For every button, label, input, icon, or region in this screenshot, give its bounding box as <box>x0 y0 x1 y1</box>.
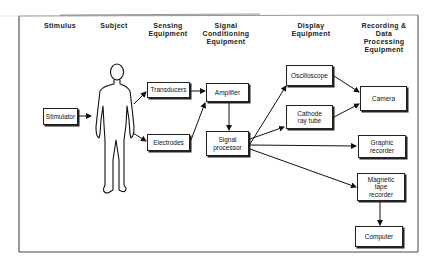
column-header-sensing-equipment: Sensing Equipment <box>142 22 194 38</box>
node-magnetic-tape-recorder: Magnetic tape recorder <box>357 173 405 201</box>
column-header-subject: Subject <box>94 22 134 30</box>
column-header-stimulus: Stimulus <box>40 22 80 30</box>
node-signal-processor: Signal processor <box>206 131 249 156</box>
column-header-display-equipment: Display Equipment <box>285 22 337 38</box>
node-amplifier: Amplifier <box>206 83 249 102</box>
diagram-canvas: Stimulus Subject Sensing Equipment Signa… <box>0 0 431 263</box>
column-header-recording-data-processing-equipment: Recording & Data Processing Equipment <box>356 22 412 54</box>
node-camera: Camera <box>360 86 407 111</box>
node-computer: Computer <box>355 226 403 247</box>
human-figure-icon <box>96 64 134 193</box>
node-electrodes: Electrodes <box>147 134 190 151</box>
node-graphic-recorder: Graphic recorder <box>358 135 406 158</box>
column-header-signal-conditioning-equipment: Signal Conditioning Equipment <box>198 22 254 46</box>
node-transducers: Transducers <box>147 82 190 98</box>
node-stimulator: Stimulator <box>43 108 78 125</box>
node-oscilloscope: Oscilloscope <box>286 65 333 86</box>
node-cathode-ray-tube: Cathode ray tube <box>286 105 333 129</box>
